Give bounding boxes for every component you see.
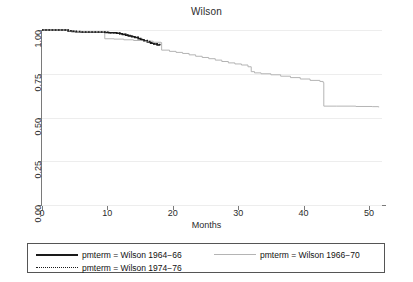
x-axis-title: Months [0, 220, 413, 230]
legend-item-2[interactable]: pmterm = Wilson 1974−76 [36, 261, 182, 274]
y-tick-label: 1.00 [33, 30, 43, 48]
x-tick-label: 40 [299, 208, 309, 218]
dotted-black-key [36, 263, 78, 272]
x-tick-label: 50 [364, 208, 374, 218]
legend-label: pmterm = Wilson 1966−70 [260, 250, 360, 260]
x-tick-label: 0 [39, 208, 44, 218]
x-tick-label: 10 [102, 208, 112, 218]
survival-curves [42, 30, 382, 205]
x-tick-label: 30 [233, 208, 243, 218]
chart-title: Wilson [0, 6, 413, 17]
solid-black-key [36, 250, 78, 259]
solid-gray-key [214, 250, 256, 259]
y-tick-label: 0.75 [33, 74, 43, 92]
chart-root: Wilson 0.000.250.500.751.00 01020304050 … [0, 0, 413, 282]
legend-item-1[interactable]: pmterm = Wilson 1966−70 [214, 248, 360, 261]
legend-label: pmterm = Wilson 1974−76 [82, 263, 182, 273]
legend-label: pmterm = Wilson 1964−66 [82, 250, 182, 260]
x-tick-label: 20 [168, 208, 178, 218]
legend: pmterm = Wilson 1964−66 pmterm = Wilson … [27, 243, 385, 273]
gridline [42, 205, 382, 206]
y-tick-label: 0.25 [33, 161, 43, 179]
legend-item-0[interactable]: pmterm = Wilson 1964−66 [36, 248, 182, 261]
y-tick-label: 0.50 [33, 118, 43, 136]
series-line-0 [42, 30, 160, 45]
plot-area [42, 30, 382, 205]
series-line-1 [42, 30, 379, 107]
